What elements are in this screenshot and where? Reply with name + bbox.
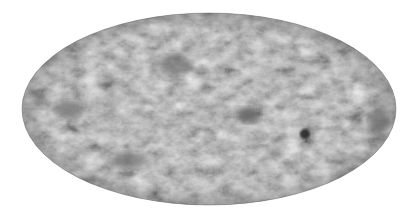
sky-limb-darkening [22,13,396,205]
sky-map-surface [0,0,417,215]
mollweide-sky-map [0,0,417,215]
sky-map-container [0,0,417,215]
